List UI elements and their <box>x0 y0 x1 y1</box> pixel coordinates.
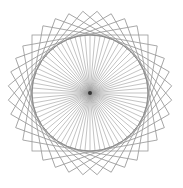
geometric-pattern <box>0 0 183 188</box>
center-dot <box>88 91 92 95</box>
